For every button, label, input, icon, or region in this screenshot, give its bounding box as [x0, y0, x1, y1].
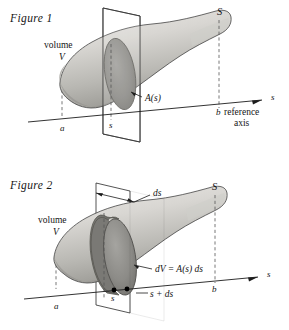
axis-variable-label: s — [271, 92, 275, 102]
slab-thickness-label: ds — [153, 188, 162, 198]
upper-bound-label: b — [212, 284, 217, 294]
cut-position-label: s — [111, 293, 115, 303]
figure-2-caption: Figure 2 — [9, 179, 53, 192]
arrow-right-icon — [248, 277, 258, 282]
figure-1-caption: Figure 1 — [9, 12, 53, 25]
filled-dot-icon-s — [112, 288, 117, 293]
volume-word-label: volume — [38, 215, 67, 225]
area-function-label: A(s) — [144, 93, 161, 104]
axis-variable-label: s — [267, 269, 271, 279]
figure-2-illustration: Figure 2 — [0, 165, 289, 330]
figure-1-panel: Figure 1 — [0, 0, 289, 165]
volume-word-label: volume — [44, 40, 73, 50]
figure-1-illustration: Figure 1 — [0, 0, 289, 165]
arrow-right-icon — [252, 100, 262, 105]
volume-symbol-label: V — [53, 227, 60, 237]
reference-axis — [24, 277, 258, 299]
surface-symbol-label: S — [212, 181, 218, 192]
cut-position-label: s — [109, 120, 113, 130]
upper-bound-label: b — [216, 107, 221, 117]
axis-name-line1: reference — [224, 107, 259, 117]
volume-symbol-label: V — [59, 52, 66, 62]
lower-bound-label: a — [60, 123, 65, 133]
lower-bound-label: a — [54, 301, 59, 311]
volume-element-label: dV = A(s) ds — [155, 264, 203, 275]
figure-2-panel: Figure 2 — [0, 165, 289, 330]
filled-dot-icon-s-plus-ds — [125, 287, 130, 292]
cut-position-plus-label: s + ds — [150, 289, 174, 299]
surface-symbol-label: S — [217, 6, 223, 17]
axis-name-line2: axis — [234, 118, 250, 128]
